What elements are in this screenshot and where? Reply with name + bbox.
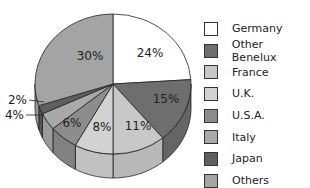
- legend-swatch: [204, 44, 218, 58]
- legend-swatch: [204, 152, 218, 166]
- legend: Germany Other Benelux France U.K. U.S.A.…: [204, 18, 310, 188]
- legend-item-usa: U.S.A.: [204, 105, 310, 127]
- legend-swatch: [204, 22, 218, 36]
- legend-label: U.K.: [232, 87, 254, 100]
- legend-swatch: [204, 109, 218, 123]
- slice-label: 15%: [153, 92, 180, 106]
- legend-item-france: France: [204, 61, 310, 83]
- pie-chart: 24%15%11%8%6%30%2%4%: [0, 0, 200, 188]
- slice-label: 2%: [8, 93, 27, 107]
- legend-swatch: [204, 130, 218, 144]
- legend-label: Italy: [232, 131, 256, 144]
- legend-label: Other Benelux: [232, 38, 310, 64]
- slice-label: 24%: [137, 46, 164, 60]
- legend-swatch: [204, 65, 218, 79]
- legend-item-others: Others: [204, 170, 310, 188]
- legend-swatch: [204, 174, 218, 188]
- legend-item-other-benelux: Other Benelux: [204, 40, 310, 62]
- legend-item-italy: Italy: [204, 126, 310, 148]
- legend-item-germany: Germany: [204, 18, 310, 40]
- slice-label: 6%: [62, 116, 81, 130]
- legend-swatch: [204, 87, 218, 101]
- legend-label: Others: [232, 174, 269, 187]
- legend-label: France: [232, 66, 269, 79]
- slice-label: 4%: [5, 108, 24, 122]
- legend-label: Japan: [232, 152, 263, 165]
- legend-label: U.S.A.: [232, 109, 265, 122]
- slice-label: 11%: [125, 119, 152, 133]
- legend-item-japan: Japan: [204, 148, 310, 170]
- legend-label: Germany: [232, 22, 283, 35]
- slice-label: 30%: [77, 49, 104, 63]
- slice-label: 8%: [92, 120, 111, 134]
- legend-item-uk: U.K.: [204, 83, 310, 105]
